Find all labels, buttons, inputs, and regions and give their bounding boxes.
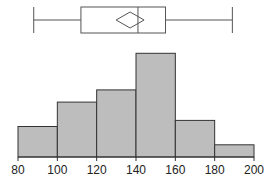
iqr-box bbox=[81, 7, 166, 33]
x-tick-label: 200 bbox=[244, 163, 264, 177]
box-plot bbox=[34, 7, 233, 33]
x-tick-label: 100 bbox=[47, 163, 67, 177]
x-tick-label: 140 bbox=[126, 163, 146, 177]
histogram-bars bbox=[18, 53, 254, 157]
histogram-boxplot-chart: 80100120140160180200 bbox=[0, 0, 271, 193]
x-tick-label: 120 bbox=[87, 163, 107, 177]
mean-diamond-marker bbox=[116, 12, 144, 28]
histogram-bar bbox=[57, 102, 96, 157]
x-axis: 80100120140160180200 bbox=[11, 157, 264, 177]
histogram-bar bbox=[175, 120, 214, 157]
x-tick-label: 160 bbox=[165, 163, 185, 177]
histogram-bar bbox=[215, 145, 254, 157]
histogram-bar bbox=[18, 127, 57, 158]
histogram-bar bbox=[97, 90, 136, 157]
histogram-bar bbox=[136, 53, 175, 157]
x-tick-label: 180 bbox=[205, 163, 225, 177]
x-tick-label: 80 bbox=[11, 163, 25, 177]
